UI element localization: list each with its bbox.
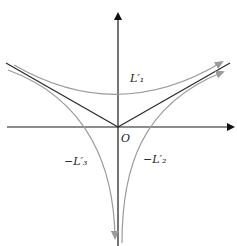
- label-l2: −L′₂: [143, 153, 166, 166]
- curve-l2: [122, 72, 223, 243]
- origin-label: O: [121, 132, 130, 145]
- v-line-left: [6, 63, 118, 127]
- diagram-canvas: L′₁ −L′₃ −L′₂ O: [0, 0, 237, 246]
- label-l1: L′₁: [129, 72, 144, 85]
- label-l3: −L′₃: [64, 155, 87, 168]
